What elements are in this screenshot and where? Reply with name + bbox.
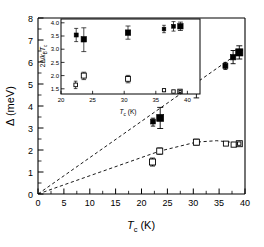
data-point-filled-square [162, 27, 166, 31]
data-point-filled-square [230, 55, 235, 60]
data-point-filled-square [223, 63, 228, 68]
main-ytick-5: 5 [28, 80, 33, 90]
data-point-open-square [157, 148, 163, 154]
lower-dashed-guide [38, 141, 243, 194]
inset-xtick-30: 30 [121, 97, 128, 103]
data-point-filled-square [157, 114, 164, 121]
data-point-open-square [162, 89, 165, 92]
main-xtick-15: 15 [111, 198, 121, 208]
main-ytick-6: 6 [28, 58, 33, 68]
main-x-ticks: 0 5 10 15 20 25 30 35 40 [35, 189, 250, 209]
main-xtick-10: 10 [85, 198, 95, 208]
inset-x-axis-label: Tc (K) [120, 108, 137, 117]
main-ytick-8: 8 [28, 14, 33, 24]
data-point-open-square [231, 142, 236, 147]
main-ytick-2: 2 [28, 146, 33, 156]
inset-ytick-2: 2.0 [51, 73, 60, 79]
data-point-filled-square [151, 119, 156, 124]
data-point-open-square [223, 141, 228, 146]
main-xtick-5: 5 [61, 198, 66, 208]
main-series-open-squares [150, 139, 243, 166]
data-point-open-square [81, 73, 86, 78]
main-xtick-35: 35 [214, 198, 224, 208]
main-y-ticks: 0 1 2 3 4 5 6 7 8 [28, 14, 44, 200]
inset-xtick-40: 40 [184, 97, 191, 103]
inset-xtick-25: 25 [89, 97, 96, 103]
data-point-filled-square [81, 37, 86, 42]
main-y-axis-label: Δ (meV) [4, 86, 16, 126]
data-point-open-square [150, 159, 156, 165]
main-ytick-0: 0 [28, 190, 33, 200]
figure-panel: 0 1 2 3 4 5 6 7 8 [0, 0, 264, 247]
main-xtick-0: 0 [35, 198, 40, 208]
inset-xtick-20: 20 [58, 97, 65, 103]
data-point-open-square [74, 83, 78, 87]
main-ytick-4: 4 [28, 102, 33, 112]
inset-y-axis-label: 2Δ/kBTc [39, 44, 48, 67]
main-ytick-3: 3 [28, 124, 33, 134]
data-point-open-square [193, 139, 199, 145]
inset-ytick-6: 4.0 [51, 20, 60, 26]
main-xtick-40: 40 [240, 198, 250, 208]
main-ytick-7: 7 [28, 36, 33, 46]
inset-panel: 1.5 2.0 2.5 3.0 3.5 4.0 20 25 30 35 40 [39, 19, 200, 117]
data-point-open-square-inner [238, 142, 241, 145]
data-point-filled-square [74, 33, 78, 37]
inset-ytick-3: 2.5 [51, 60, 60, 66]
main-xtick-20: 20 [136, 198, 146, 208]
inset-ytick-4: 3.0 [51, 46, 60, 52]
data-point-filled-square [178, 24, 183, 29]
main-xtick-25: 25 [162, 198, 172, 208]
data-point-open-square-inner [179, 90, 181, 92]
main-ytick-1: 1 [28, 168, 33, 178]
data-point-filled-square [236, 49, 243, 56]
inset-ytick-1: 1.5 [51, 86, 60, 92]
main-x-axis-label: Tc (K) [127, 219, 155, 234]
data-point-open-square [126, 77, 131, 82]
inset-xtick-35: 35 [152, 97, 159, 103]
data-point-filled-square [172, 24, 176, 28]
main-xtick-30: 30 [188, 198, 198, 208]
data-point-filled-square [125, 30, 130, 35]
scientific-plot: 0 1 2 3 4 5 6 7 8 [0, 0, 264, 247]
data-point-open-square [172, 90, 175, 93]
inset-ytick-5: 3.5 [51, 33, 60, 39]
